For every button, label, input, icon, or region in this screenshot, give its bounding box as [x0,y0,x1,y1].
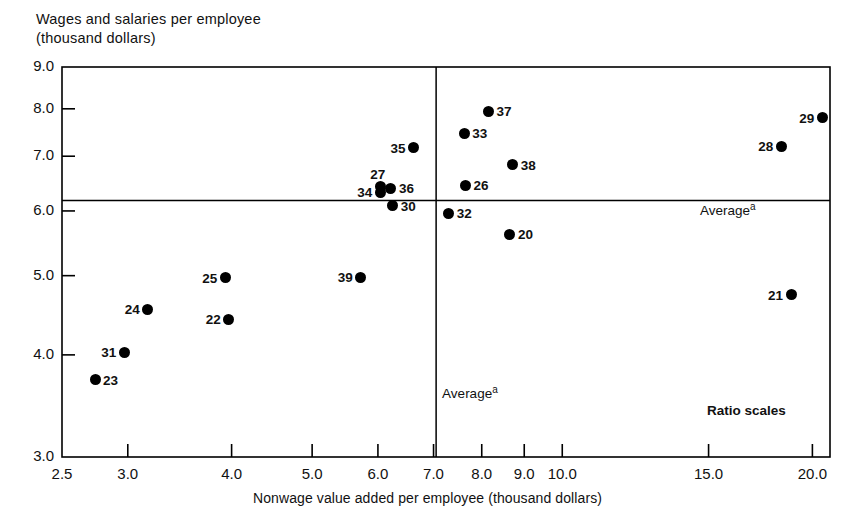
data-point-label: 27 [370,166,385,181]
data-point-marker [443,208,454,219]
data-point-marker [483,106,494,117]
average-vertical-label-footnote: a [492,384,498,395]
data-point-marker [220,272,231,283]
x-tick-label: 10.0 [532,465,592,482]
data-point-label: 31 [101,345,116,360]
data-point-marker [90,374,101,385]
data-point-marker [385,183,396,194]
data-point-marker [460,180,471,191]
data-point-label: 37 [496,104,511,119]
data-point-marker [776,141,787,152]
data-point-label: 30 [401,198,416,213]
data-point-marker [817,112,828,123]
data-point-label: 26 [474,178,489,193]
x-tick-label: 3.0 [98,465,158,482]
x-tick-label: 2.5 [32,465,92,482]
average-horizontal-label: Averagea [700,203,756,218]
y-tick-label: 5.0 [10,266,54,283]
x-tick-label: 6.0 [348,465,408,482]
average-vertical-label-text: Average [442,386,492,401]
y-tick-label: 3.0 [10,447,54,464]
data-point-marker [119,347,130,358]
x-tick-label: 20.0 [782,465,842,482]
data-point-marker [375,187,386,198]
data-point-label: 36 [399,181,414,196]
data-point-label: 29 [799,110,814,125]
data-point-label: 24 [125,302,140,317]
x-tick-label: 15.0 [679,465,739,482]
data-point-label: 25 [202,270,217,285]
y-tick-label: 8.0 [10,99,54,116]
scatter-chart-figure: Wages and salaries per employee (thousan… [0,0,855,520]
data-point-label: 28 [758,139,773,154]
data-point-label: 32 [457,206,472,221]
average-horizontal-label-footnote: a [750,201,756,212]
y-tick-label: 7.0 [10,146,54,163]
data-point-label: 39 [338,270,353,285]
y-tick-label: 4.0 [10,345,54,362]
data-point-label: 35 [390,140,405,155]
x-axis-title: Nonwage value added per employee (thousa… [0,490,855,506]
x-tick-label: 5.0 [282,465,342,482]
data-point-label: 33 [472,126,487,141]
data-point-marker [142,304,153,315]
data-point-marker [786,289,797,300]
data-point-label: 22 [206,312,221,327]
ratio-scales-note: Ratio scales [707,403,786,418]
data-point-marker [355,272,366,283]
y-tick-label: 9.0 [10,57,54,74]
data-point-label: 23 [103,372,118,387]
data-point-label: 34 [357,185,372,200]
data-point-label: 21 [768,287,783,302]
y-tick-label: 6.0 [10,201,54,218]
plot-canvas [0,0,855,520]
average-vertical-label: Averagea [442,386,498,401]
data-point-marker [459,128,470,139]
average-horizontal-label-text: Average [700,203,750,218]
data-point-label: 38 [521,157,536,172]
data-point-label: 20 [518,227,533,242]
x-tick-label: 4.0 [202,465,262,482]
